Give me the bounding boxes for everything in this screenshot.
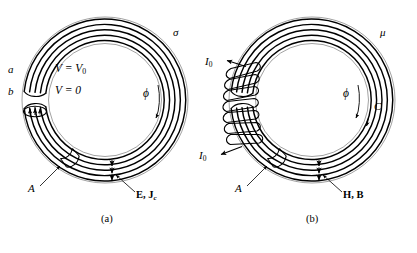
figure-container: a b V = V0 V = 0 σ ϕ A E, Jc (a) I0 I0 μ…: [0, 0, 417, 253]
label-voltage-top-text: V = V: [55, 62, 82, 74]
toroid-a-outer-edge: [22, 17, 188, 183]
toroid-a-inner-edge: [49, 44, 162, 157]
label-flux-b: ϕ: [343, 88, 349, 100]
label-e-jc: E, Jc: [136, 190, 157, 202]
leader-line-a-area: [40, 166, 60, 186]
terminal-b-current-arrows: [30, 109, 40, 115]
caption-panel-b: (b): [306, 214, 318, 225]
leader-line-h-b: [323, 175, 342, 192]
leader-line-b-area: [247, 166, 267, 186]
lead-wire-bottom: [221, 147, 242, 155]
label-terminal-b: b: [8, 86, 14, 97]
caption-panel-a: (a): [101, 214, 113, 225]
label-area-a: A: [28, 183, 35, 194]
label-flux-a: ϕ: [143, 88, 149, 100]
label-e-jc-text: E, J: [136, 189, 154, 200]
label-contour-c: C: [374, 101, 381, 112]
toroid-figure-svg: [0, 0, 417, 253]
label-current-top: I0: [205, 56, 212, 69]
label-current-bottom-sub: 0: [203, 154, 207, 163]
label-voltage-top: V = V0: [55, 63, 86, 76]
label-voltage-top-sub: 0: [82, 67, 86, 76]
label-area-b: A: [235, 183, 242, 194]
label-sigma: σ: [173, 27, 178, 38]
label-voltage-bottom: V = 0: [55, 85, 81, 97]
label-current-bottom: I0: [199, 150, 206, 163]
flux-arrow-b: [356, 85, 359, 118]
toroid-b-outer-edge: [229, 17, 395, 183]
flux-arrow-a: [156, 85, 159, 118]
label-terminal-a: a: [8, 64, 14, 75]
label-h-b: H, B: [343, 190, 363, 201]
label-current-top-sub: 0: [209, 60, 213, 69]
panel-b-toroid: [221, 17, 395, 192]
leader-line-e-jc: [116, 175, 135, 192]
label-e-jc-sub: c: [154, 194, 157, 202]
panel-a-toroid: [22, 17, 188, 192]
toroid-b-inner-edge: [256, 44, 369, 157]
label-mu: μ: [380, 27, 386, 38]
